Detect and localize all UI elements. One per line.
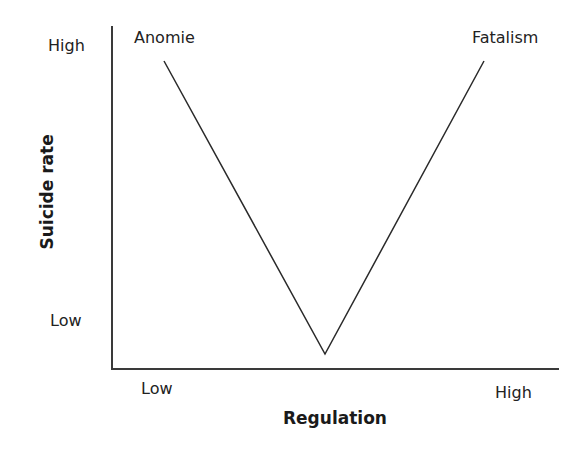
v-curve-line: [164, 61, 484, 354]
x-tick-low: Low: [141, 381, 173, 397]
x-tick-high: High: [495, 385, 532, 401]
y-axis-title: Suicide rate: [39, 140, 56, 250]
y-tick-low: Low: [50, 313, 82, 329]
annotation-anomie: Anomie: [134, 30, 195, 46]
annotation-fatalism: Fatalism: [472, 30, 538, 46]
x-axis-title: Regulation: [283, 410, 387, 427]
y-tick-high: High: [48, 38, 85, 54]
